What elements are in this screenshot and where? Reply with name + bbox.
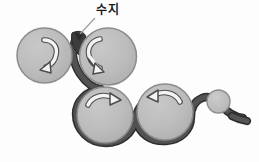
diagram-canvas bbox=[0, 0, 259, 162]
histone-sphere-5 bbox=[207, 90, 230, 113]
histone-sphere-3 bbox=[77, 87, 133, 143]
histone-sphere-2 bbox=[80, 28, 137, 85]
nucleosome-diagram: 수지 bbox=[0, 0, 259, 162]
sphere-5-body bbox=[207, 90, 230, 113]
callout-label-suji: 수지 bbox=[96, 4, 119, 16]
sphere-1-body bbox=[17, 28, 72, 83]
histone-sphere-1 bbox=[17, 28, 72, 83]
histone-sphere-4 bbox=[137, 84, 193, 140]
